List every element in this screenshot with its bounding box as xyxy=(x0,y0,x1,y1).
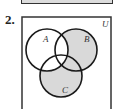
set-c-label: C xyxy=(62,85,69,95)
venn-diagram: A B C U xyxy=(0,0,118,109)
universe-label: U xyxy=(102,19,109,29)
set-a-label: A xyxy=(42,34,49,44)
set-b-label: B xyxy=(84,34,90,44)
